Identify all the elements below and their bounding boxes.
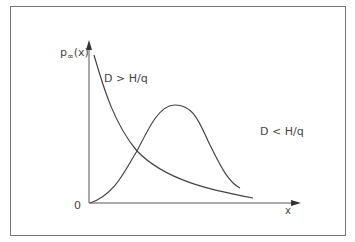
x-axis-label: x (285, 205, 291, 216)
y-axis-label: p∞(x) (60, 46, 89, 61)
x-axis-arrow-icon (291, 200, 301, 206)
diagram (0, 0, 355, 242)
curve-label-d-less: D < H/q (260, 125, 304, 138)
origin-label: 0 (74, 199, 81, 212)
curve-d-less (90, 105, 240, 203)
frame (11, 7, 346, 236)
curve-label-d-greater: D > H/q (104, 72, 148, 85)
